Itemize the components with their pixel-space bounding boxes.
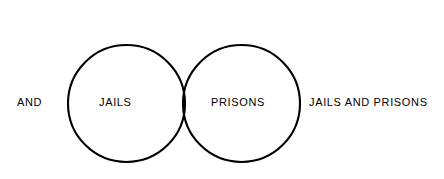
venn-diagram [0, 0, 444, 179]
result-label: JAILS AND PRISONS [309, 96, 428, 108]
operator-label: AND [17, 96, 42, 108]
left-set-label: JAILS [99, 96, 132, 108]
venn-figure-container: Figure 3.1 Jails AND Prisons AND JAILS [0, 0, 444, 179]
right-set-label: PRISONS [211, 96, 265, 108]
diagram-background [0, 0, 444, 179]
